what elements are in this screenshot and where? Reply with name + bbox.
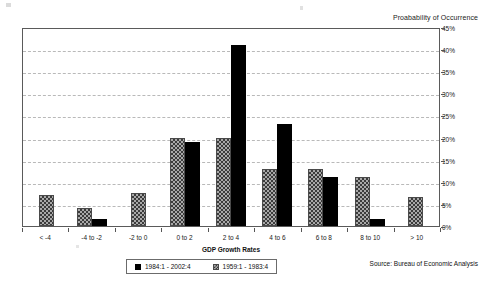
x-axis-title: GDP Growth Rates [22, 246, 440, 253]
x-axis-tick-mark [68, 228, 69, 232]
bar [92, 219, 107, 226]
bar [185, 142, 200, 226]
bar-groups [23, 29, 439, 226]
y-axis-tick-mark [441, 94, 445, 95]
x-axis-tick-label: 0 to 2 [161, 234, 207, 241]
legend-swatch-icon [213, 264, 219, 270]
y-axis-tick-mark [441, 139, 445, 140]
bar [370, 219, 385, 226]
x-axis-tick-label: 8 to 10 [347, 234, 393, 241]
bar [355, 177, 370, 226]
scan-artifact [76, 245, 79, 248]
source-note: Source: Bureau of Economic Analysis [370, 260, 478, 267]
legend-swatch-icon [135, 264, 141, 270]
bar [231, 45, 246, 226]
x-axis-tick-label: -4 to -2 [68, 234, 114, 241]
legend-item-series1: 1984:1 - 2002:4 [135, 263, 191, 270]
bar [262, 169, 277, 226]
x-axis-tick-mark [161, 228, 162, 232]
bar-group [23, 29, 69, 226]
chart-legend: 1984:1 - 2002:4 1959:1 - 1983:4 [126, 259, 277, 274]
x-axis-tick-label: 6 to 8 [301, 234, 347, 241]
legend-item-series2: 1959:1 - 1983:4 [213, 263, 269, 270]
x-axis-tick-mark [208, 228, 209, 232]
x-axis-tick-label: 4 to 6 [254, 234, 300, 241]
x-axis-tick-label: -2 to 0 [115, 234, 161, 241]
legend-label: 1959:1 - 1983:4 [223, 263, 269, 270]
bar-group [208, 29, 254, 226]
x-axis-tick-mark [22, 228, 23, 232]
bar [77, 208, 92, 226]
y-axis-tick-mark [441, 161, 445, 162]
bar-group [254, 29, 300, 226]
bar [216, 138, 231, 226]
x-axis-tick-label: 2 to 4 [208, 234, 254, 241]
x-axis-tick-mark [115, 228, 116, 232]
x-axis-tick-mark [301, 228, 302, 232]
bar-group [115, 29, 161, 226]
chart-figure: Proabability of Occurrence 0%5%10%15%20%… [0, 0, 486, 289]
bar-group [162, 29, 208, 226]
bar [323, 177, 338, 226]
bar [408, 197, 423, 226]
bar [308, 169, 323, 226]
y-axis-tick-mark [441, 183, 445, 184]
x-axis-tick-label: > 10 [394, 234, 440, 241]
scan-artifact [300, 6, 303, 10]
plot-area [22, 28, 440, 227]
bar-group [69, 29, 115, 226]
x-axis-tick-mark [347, 228, 348, 232]
x-axis-tick-mark [394, 228, 395, 232]
bar [170, 138, 185, 226]
bar-group [347, 29, 393, 226]
y-axis-tick-mark [441, 227, 445, 228]
legend-label: 1984:1 - 2002:4 [145, 263, 191, 270]
x-axis-tick-label: < -4 [22, 234, 68, 241]
y-axis-tick-mark [441, 72, 445, 73]
bar [131, 193, 146, 226]
scan-artifact [6, 3, 11, 7]
chart-title: Proabability of Occurrence [0, 14, 478, 21]
bar [39, 195, 54, 226]
x-axis-tick-mark [254, 228, 255, 232]
y-axis-tick-mark [441, 50, 445, 51]
y-axis-tick-mark [441, 205, 445, 206]
x-axis-labels: < -4-4 to -2-2 to 00 to 22 to 44 to 66 t… [22, 234, 440, 241]
bar-group [300, 29, 346, 226]
bar-group [393, 29, 439, 226]
bar [277, 124, 292, 226]
x-axis-tick-mark [440, 228, 441, 232]
y-axis-tick-mark [441, 28, 445, 29]
y-axis-tick-mark [441, 116, 445, 117]
